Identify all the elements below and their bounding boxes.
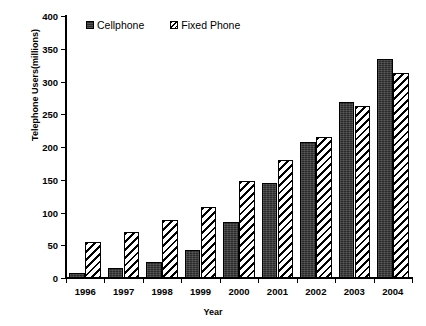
bar-cellphone-1999 [185, 250, 201, 278]
y-tick-mark [61, 147, 66, 148]
x-tick-label: 1999 [190, 286, 211, 297]
legend-swatch-fixed-phone [170, 21, 178, 29]
x-tick-label: 1997 [113, 286, 134, 297]
x-tick-label: 2000 [228, 286, 249, 297]
y-tick-mark [61, 213, 66, 214]
y-tick-label: 150 [42, 174, 58, 185]
x-tick-label: 2002 [305, 286, 326, 297]
y-tick-label: 400 [42, 11, 58, 22]
x-tick-label: 2001 [267, 286, 288, 297]
bar-cellphone-2001 [262, 183, 278, 278]
x-tick-mark [181, 278, 182, 283]
bar-fixed-phone-2003 [355, 106, 371, 278]
x-tick-mark [297, 278, 298, 283]
x-tick-label: 1996 [75, 286, 96, 297]
y-tick-mark [61, 82, 66, 83]
x-tick-label: 1998 [152, 286, 173, 297]
y-tick-mark [61, 180, 66, 181]
bar-cellphone-2002 [300, 142, 316, 278]
y-tick-label: 50 [47, 240, 58, 251]
bar-cellphone-2000 [223, 222, 239, 278]
y-tick-label: 350 [42, 43, 58, 54]
bar-cellphone-1996 [69, 273, 85, 278]
y-tick-label: 0 [53, 273, 58, 284]
bar-cellphone-2004 [377, 59, 393, 278]
legend-item-cellphone: Cellphone [86, 19, 144, 31]
x-tick-mark [104, 278, 105, 283]
bar-fixed-phone-1999 [201, 207, 217, 278]
x-tick-label: 2003 [344, 286, 365, 297]
x-tick-mark [258, 278, 259, 283]
bar-fixed-phone-2004 [393, 73, 409, 278]
y-tick-mark [61, 114, 66, 115]
y-tick-label: 200 [42, 142, 58, 153]
bar-cellphone-2003 [339, 102, 355, 278]
x-tick-label: 2004 [382, 286, 403, 297]
legend-swatch-cellphone [86, 21, 94, 29]
x-tick-mark [335, 278, 336, 283]
y-tick-mark [61, 245, 66, 246]
x-axis-title: Year [0, 307, 426, 317]
bar-fixed-phone-1997 [124, 232, 140, 279]
x-tick-mark [374, 278, 375, 283]
plot-area: 050100150200250300350400 199619971998199… [66, 16, 412, 278]
legend-label-fixed-phone: Fixed Phone [181, 19, 240, 31]
bar-fixed-phone-2001 [278, 160, 294, 278]
legend-label-cellphone: Cellphone [97, 19, 144, 31]
x-tick-mark [66, 278, 67, 283]
bar-chart: Telephone Users(millions) 05010015020025… [0, 0, 426, 326]
y-tick-label: 250 [42, 109, 58, 120]
x-tick-mark [220, 278, 221, 283]
x-tick-mark [412, 278, 413, 283]
bar-fixed-phone-1996 [85, 242, 101, 278]
y-tick-label: 100 [42, 207, 58, 218]
chart-legend: Cellphone Fixed Phone [86, 19, 240, 31]
bar-cellphone-1997 [108, 268, 124, 278]
y-axis-title: Telephone Users(millions) [30, 0, 40, 180]
bar-fixed-phone-2000 [239, 181, 255, 278]
y-tick-mark [61, 49, 66, 50]
legend-item-fixed-phone: Fixed Phone [170, 19, 240, 31]
x-tick-mark [143, 278, 144, 283]
y-tick-label: 300 [42, 76, 58, 87]
bar-cellphone-1998 [146, 262, 162, 278]
bar-fixed-phone-2002 [316, 137, 332, 278]
y-tick-mark [61, 16, 66, 17]
bar-fixed-phone-1998 [162, 220, 178, 278]
